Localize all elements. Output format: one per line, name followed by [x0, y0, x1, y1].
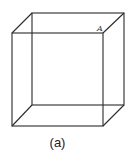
cube-edge-top-right: [103, 13, 124, 33]
cube-edge-bottom-left: [12, 105, 32, 126]
figure-caption: (a): [0, 135, 115, 150]
vertex-label-a: A: [96, 24, 103, 33]
cube-edge-top-left: [12, 13, 32, 33]
cube-edge-bottom-right: [103, 105, 124, 126]
